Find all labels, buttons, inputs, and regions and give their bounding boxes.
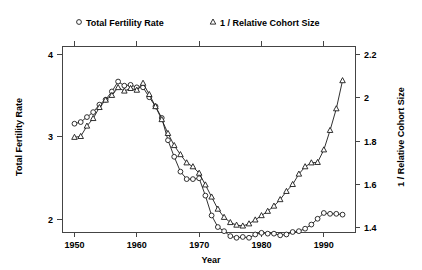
- data-point-triangle: [315, 159, 321, 164]
- y-axis-right-title: 1 / Relative Cohort Size: [396, 87, 406, 187]
- y-axis-right-ticks: 1.41.61.822.2: [355, 50, 377, 233]
- y2-tick-label: 2: [364, 93, 369, 103]
- x-axis-title: Year: [201, 255, 221, 265]
- data-point-circle: [91, 110, 96, 115]
- legend-label: 1 / Relative Cohort Size: [220, 18, 320, 28]
- data-point-triangle: [203, 182, 209, 187]
- data-point-circle: [296, 229, 301, 234]
- y2-tick-label: 1.8: [364, 137, 377, 147]
- data-point-circle: [234, 235, 239, 240]
- data-point-triangle: [90, 115, 96, 120]
- data-series-group: [72, 78, 346, 241]
- data-point-circle: [203, 193, 208, 198]
- x-tick-label: 1950: [64, 240, 84, 250]
- legend-label: Total Fertility Rate: [86, 18, 164, 28]
- data-point-circle: [290, 230, 295, 235]
- data-point-circle: [272, 231, 277, 236]
- data-point-triangle: [334, 106, 340, 111]
- data-point-circle: [340, 212, 345, 217]
- data-point-triangle: [290, 181, 296, 186]
- data-point-circle: [247, 235, 252, 240]
- data-point-circle: [166, 138, 171, 143]
- data-point-triangle: [78, 133, 84, 138]
- data-point-triangle: [302, 164, 308, 169]
- data-point-triangle: [265, 208, 271, 213]
- data-point-circle: [315, 216, 320, 221]
- series-tfr: [72, 79, 345, 240]
- chart-legend: Total Fertility Rate1 / Relative Cohort …: [77, 18, 320, 28]
- y2-tick-label: 1.4: [364, 223, 377, 233]
- data-point-circle: [328, 211, 333, 216]
- data-point-triangle: [259, 213, 265, 218]
- x-tick-label: 1970: [189, 240, 209, 250]
- fertility-cohort-chart: Total Fertility Rate1 / Relative Cohort …: [0, 0, 422, 270]
- data-point-circle: [85, 115, 90, 120]
- data-point-circle: [215, 225, 220, 230]
- series-polyline: [74, 82, 342, 238]
- data-point-circle: [178, 169, 183, 174]
- x-tick-label: 1960: [127, 240, 147, 250]
- data-point-circle: [184, 177, 189, 182]
- data-point-triangle: [140, 80, 146, 85]
- data-point-circle: [78, 120, 83, 125]
- data-point-triangle: [252, 217, 258, 222]
- data-point-triangle: [246, 221, 252, 226]
- data-point-triangle: [209, 194, 215, 199]
- data-point-triangle: [190, 164, 196, 169]
- y-tick-label: 2: [48, 215, 53, 225]
- data-point-circle: [116, 79, 121, 84]
- data-point-circle: [334, 211, 339, 216]
- data-point-circle: [191, 177, 196, 182]
- y-tick-label: 4: [48, 50, 53, 60]
- data-point-circle: [209, 213, 214, 218]
- data-point-circle: [309, 222, 314, 227]
- data-point-circle: [222, 229, 227, 234]
- y2-tick-label: 2.2: [364, 50, 377, 60]
- data-point-circle: [284, 232, 289, 237]
- chart-canvas: Total Fertility Rate1 / Relative Cohort …: [0, 0, 422, 270]
- data-point-circle: [303, 226, 308, 231]
- legend-marker-circle: [77, 20, 82, 25]
- y2-tick-label: 1.6: [364, 180, 377, 190]
- data-point-circle: [259, 230, 264, 235]
- y-tick-label: 3: [48, 132, 53, 142]
- data-point-circle: [265, 231, 270, 236]
- data-point-triangle: [340, 78, 346, 83]
- data-point-circle: [240, 235, 245, 240]
- x-tick-label: 1990: [314, 240, 334, 250]
- data-point-triangle: [215, 206, 221, 211]
- data-point-circle: [228, 234, 233, 239]
- data-point-triangle: [321, 147, 327, 152]
- legend-marker-triangle: [210, 19, 216, 24]
- data-point-triangle: [327, 127, 333, 132]
- y-axis-left-ticks: 234: [48, 50, 62, 225]
- data-point-circle: [172, 154, 177, 159]
- y-axis-left-title: Total Fertility Rate: [14, 98, 24, 176]
- data-point-circle: [321, 211, 326, 216]
- x-tick-label: 1980: [251, 240, 271, 250]
- data-point-circle: [278, 233, 283, 238]
- data-point-triangle: [228, 219, 234, 224]
- data-point-triangle: [171, 142, 177, 147]
- x-axis-ticks: 19501960197019801990: [64, 41, 333, 250]
- data-point-circle: [253, 232, 258, 237]
- data-point-circle: [72, 121, 77, 126]
